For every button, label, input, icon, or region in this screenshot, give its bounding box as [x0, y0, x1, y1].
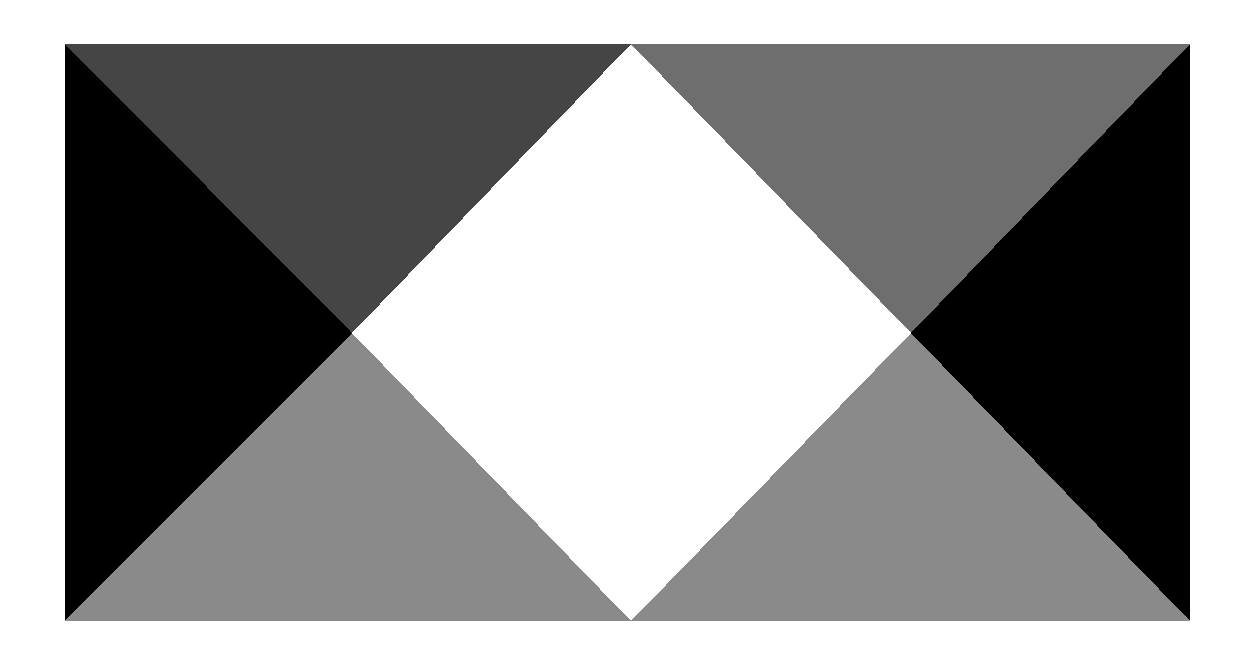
- figure-canvas: Geometric diamond composition Rectangula…: [0, 0, 1254, 660]
- geometric-figure: Geometric diamond composition Rectangula…: [0, 0, 1254, 660]
